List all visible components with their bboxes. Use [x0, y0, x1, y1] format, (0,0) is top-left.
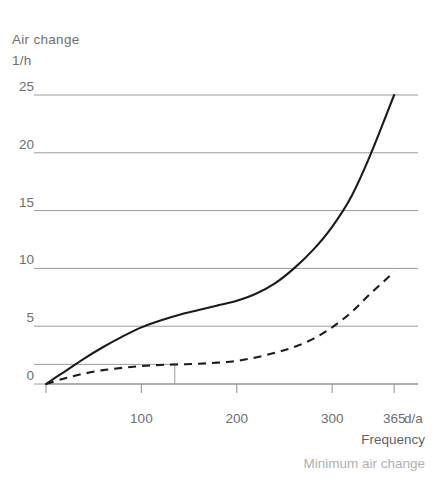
minimum-air-change-reference-lines: [34, 364, 175, 384]
series-air-change-curve: [46, 95, 394, 384]
caption-minimum-air-change: Minimum air change: [303, 456, 425, 471]
y-tick-label-25: 25: [0, 79, 34, 94]
gridlines: [34, 95, 418, 384]
y-tick-label-20: 20: [0, 137, 34, 152]
x-tick-label-300: 300: [309, 411, 355, 426]
series-minimum-air-change-curve: [46, 272, 394, 384]
y-tick-label-5: 5: [0, 310, 34, 325]
chart-container: Air change 1/h 0510152025 100200300365 d…: [0, 0, 443, 494]
x-axis-unit-label: d/a: [404, 411, 423, 426]
caption-frequency: Frequency: [361, 432, 425, 447]
y-tick-label-15: 15: [0, 195, 34, 210]
y-tick-label-10: 10: [0, 252, 34, 267]
x-axis-tickmarks: [46, 384, 394, 393]
y-tick-label-0: 0: [0, 368, 34, 383]
x-tick-label-200: 200: [214, 411, 260, 426]
x-tick-label-100: 100: [118, 411, 164, 426]
